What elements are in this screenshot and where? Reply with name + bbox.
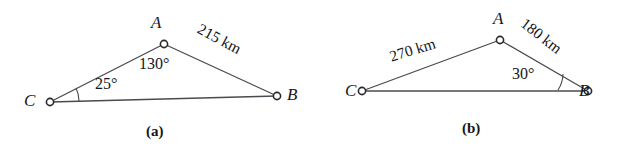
vertex-label-A: A <box>493 10 503 27</box>
vertex-label-A: A <box>151 14 161 31</box>
figure-panel-b: A B C 30° 270 km 180 km (b) <box>317 0 637 156</box>
vertex-dot-B <box>273 92 280 99</box>
edge-CB <box>50 96 277 102</box>
triangle-figure-pair: A B C 25° 130° 215 km (a) A B C 30° 270 … <box>0 0 637 156</box>
panel-caption-b: (b) <box>462 121 480 136</box>
panel-caption-a: (a) <box>146 124 164 139</box>
vertex-dot-A <box>496 36 503 43</box>
vertex-label-B: B <box>579 82 589 99</box>
angle-label-C: 25° <box>95 76 117 92</box>
vertex-dot-A <box>160 40 167 47</box>
edge-CA <box>50 44 164 102</box>
angle-label-B: 30° <box>512 66 534 82</box>
vertex-dot-C <box>358 87 365 94</box>
figure-panel-a: A B C 25° 130° 215 km (a) <box>0 0 317 156</box>
angle-label-A: 130° <box>139 56 169 72</box>
edge-AB <box>164 44 277 96</box>
angle-arc-C <box>76 88 79 101</box>
vertex-label-B: B <box>287 86 297 103</box>
vertex-dot-C <box>46 98 53 105</box>
vertex-label-C: C <box>24 92 35 109</box>
vertex-label-C: C <box>345 82 356 99</box>
